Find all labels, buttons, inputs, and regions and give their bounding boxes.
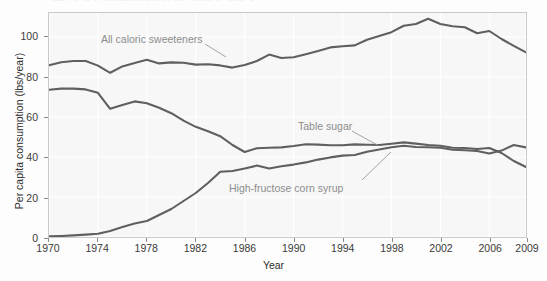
x-tick-label: 1982 xyxy=(184,242,207,254)
y-tick-label: 60 xyxy=(26,111,38,123)
x-tick-mark xyxy=(392,238,393,242)
x-tick-label: 2006 xyxy=(478,242,501,254)
y-tick-label: 20 xyxy=(26,192,38,204)
x-tick-mark xyxy=(146,238,147,242)
x-tick-mark xyxy=(490,238,491,242)
annotation-all-caloric-sweeteners: All caloric sweeteners xyxy=(101,33,203,45)
x-tick-mark xyxy=(294,238,295,242)
chart-title: Sweetener consumption in the United Stat… xyxy=(48,0,254,1)
x-tick-mark xyxy=(527,238,528,242)
series-lines xyxy=(49,13,526,237)
x-tick-label: 1998 xyxy=(380,242,403,254)
x-tick-label: 1986 xyxy=(233,242,256,254)
x-tick-label: 1970 xyxy=(36,242,59,254)
x-tick-label: 1994 xyxy=(331,242,354,254)
annotation-high-fructose-corn-syrup: High-fructose corn syrup xyxy=(229,182,343,194)
y-axis-title: Per capita consumption (lbs/year) xyxy=(13,16,25,246)
x-tick-label: 2009 xyxy=(515,242,538,254)
x-tick-mark xyxy=(48,238,49,242)
x-tick-label: 1978 xyxy=(135,242,158,254)
chart-figure: Sweetener consumption in the United Stat… xyxy=(0,0,547,281)
x-tick-label: 1990 xyxy=(282,242,305,254)
x-tick-mark xyxy=(195,238,196,242)
y-tick-label: 80 xyxy=(26,71,38,83)
annotation-table-sugar: Table sugar xyxy=(298,120,352,132)
x-tick-mark xyxy=(441,238,442,242)
x-tick-mark xyxy=(343,238,344,242)
x-tick-mark xyxy=(245,238,246,242)
y-tick-label: 40 xyxy=(26,151,38,163)
x-tick-label: 2002 xyxy=(429,242,452,254)
x-axis-title: Year xyxy=(0,259,547,271)
plot-area xyxy=(48,12,527,238)
x-tick-mark xyxy=(97,238,98,242)
x-tick-label: 1974 xyxy=(85,242,108,254)
